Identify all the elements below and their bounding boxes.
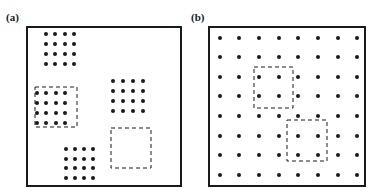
dot: [355, 114, 359, 118]
dot: [316, 153, 320, 157]
dot: [63, 42, 67, 46]
dot: [296, 153, 300, 157]
dot: [44, 52, 48, 56]
dot: [82, 176, 86, 180]
dashed-sampling-window: [111, 128, 151, 168]
dot: [44, 62, 48, 66]
dot: [63, 91, 67, 95]
dot: [35, 111, 39, 115]
panel-frame: [209, 27, 365, 186]
dot: [336, 153, 340, 157]
figure-graphic: [0, 0, 372, 191]
dot: [277, 114, 281, 118]
dot: [131, 99, 135, 103]
dot: [91, 147, 95, 151]
dot: [121, 109, 125, 113]
panel-a-clustered-dots: [27, 27, 181, 186]
dot: [296, 55, 300, 59]
dot: [91, 176, 95, 180]
panel-b-uniform-grid: [209, 27, 365, 186]
dot: [44, 32, 48, 36]
dot: [237, 75, 241, 79]
dot: [111, 89, 115, 93]
figure: (a) (b): [0, 0, 372, 191]
dot: [63, 111, 67, 115]
dot-cluster: [44, 32, 76, 66]
dot: [296, 134, 300, 138]
dot: [44, 101, 48, 105]
dot: [111, 109, 115, 113]
dot: [64, 147, 68, 151]
dot: [336, 75, 340, 79]
dot: [82, 166, 86, 170]
dot: [296, 114, 300, 118]
dot: [44, 91, 48, 95]
dot: [141, 79, 145, 83]
dot: [257, 173, 261, 177]
dot: [218, 114, 222, 118]
dot: [296, 36, 300, 40]
dot: [355, 134, 359, 138]
dot: [336, 134, 340, 138]
dot: [257, 75, 261, 79]
dot: [316, 36, 320, 40]
dot: [91, 166, 95, 170]
dot: [257, 94, 261, 98]
dot: [63, 62, 67, 66]
dot: [141, 99, 145, 103]
dashed-sampling-window: [287, 120, 327, 161]
dot: [54, 91, 58, 95]
dot: [237, 173, 241, 177]
dot: [53, 52, 57, 56]
dot: [277, 94, 281, 98]
dot: [64, 176, 68, 180]
dot: [121, 99, 125, 103]
dot: [121, 89, 125, 93]
dot: [35, 91, 39, 95]
dot: [73, 176, 77, 180]
dot: [316, 134, 320, 138]
dot: [296, 94, 300, 98]
dot: [63, 32, 67, 36]
dot: [53, 42, 57, 46]
dot: [63, 101, 67, 105]
dot: [218, 75, 222, 79]
dot: [277, 75, 281, 79]
dot: [63, 52, 67, 56]
dot: [64, 166, 68, 170]
dot: [296, 75, 300, 79]
dot: [72, 62, 76, 66]
dot: [355, 153, 359, 157]
dot: [316, 114, 320, 118]
dot: [131, 109, 135, 113]
dot: [355, 75, 359, 79]
dot: [277, 36, 281, 40]
dot: [237, 114, 241, 118]
dot: [237, 134, 241, 138]
dot: [73, 166, 77, 170]
dot: [218, 153, 222, 157]
dot: [53, 32, 57, 36]
dot: [336, 36, 340, 40]
dot: [54, 121, 58, 125]
dot: [54, 111, 58, 115]
dot: [218, 36, 222, 40]
dot: [218, 134, 222, 138]
dot: [111, 79, 115, 83]
dot: [131, 89, 135, 93]
dot: [218, 173, 222, 177]
dot: [72, 52, 76, 56]
dot: [121, 79, 125, 83]
dot: [257, 153, 261, 157]
dot: [218, 94, 222, 98]
dot: [336, 55, 340, 59]
dot: [111, 99, 115, 103]
dot: [237, 36, 241, 40]
dot: [257, 114, 261, 118]
dot: [355, 36, 359, 40]
dot: [35, 101, 39, 105]
dot: [141, 109, 145, 113]
dot: [73, 157, 77, 161]
panel-frame: [27, 27, 181, 186]
dot: [336, 114, 340, 118]
